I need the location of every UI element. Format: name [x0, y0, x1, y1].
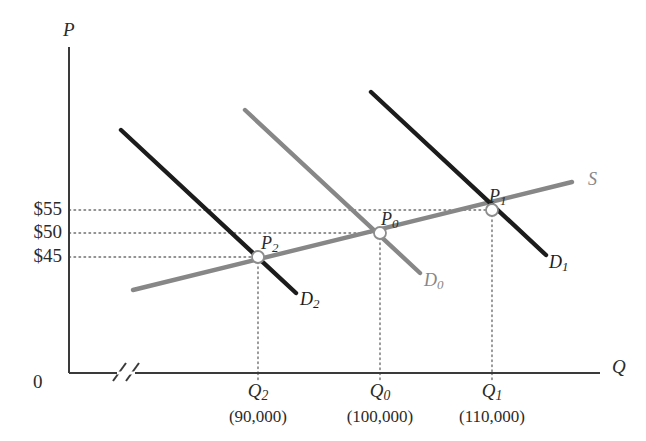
guide-lines: [69, 210, 492, 383]
equilibrium-label-p1-name: P: [489, 186, 500, 206]
quantity-tick-label-q1: Q1: [442, 381, 542, 403]
quantity-tick-label-q2: Q2: [208, 381, 308, 403]
equilibrium-label-p2: P2: [261, 234, 278, 255]
quantity-tick-label-q0: Q0: [330, 381, 430, 403]
equilibrium-label-p1: P1: [489, 187, 506, 208]
curve-label-d1: D1: [549, 253, 568, 274]
price-tick-55: $55: [0, 199, 62, 218]
curve-label-d1-sub: 1: [562, 259, 568, 274]
curve-label-d2: D2: [300, 290, 319, 311]
quantity-tick-value-q1: (110,000): [432, 408, 552, 425]
q-axis-label: Q: [612, 357, 626, 376]
equilibrium-label-p2-name: P: [261, 233, 272, 253]
quantity-tick-name-q0: Q: [370, 380, 384, 401]
curve-label-s: S: [588, 170, 597, 191]
quantity-tick-sub-q0: 0: [383, 388, 390, 403]
equilibrium-label-p2-sub: 2: [272, 240, 278, 255]
curve-label-d0: D0: [424, 271, 443, 292]
curve-label-d1-name: D: [549, 252, 562, 272]
equilibrium-label-p1-sub: 1: [500, 193, 506, 208]
origin-label: 0: [33, 372, 43, 391]
axes-lines: [69, 47, 600, 381]
equilibrium-label-p0: P0: [381, 210, 398, 231]
quantity-tick-sub-q1: 1: [495, 388, 502, 403]
supply-demand-figure: P Q 0 $55 $50 $45 Q2 (90,000) Q0 (100,00…: [0, 0, 646, 441]
curve-label-d0-name: D: [424, 270, 437, 290]
chart-canvas: [0, 0, 646, 441]
curve-label-d2-sub: 2: [313, 296, 319, 311]
quantity-tick-name-q2: Q: [248, 380, 262, 401]
quantity-tick-name-q1: Q: [482, 380, 496, 401]
quantity-tick-sub-q2: 2: [261, 388, 268, 403]
equilibrium-label-p0-name: P: [381, 209, 392, 229]
curve-label-d0-sub: 0: [437, 277, 443, 292]
price-tick-45: $45: [0, 246, 62, 265]
quantity-tick-value-q0: (100,000): [320, 408, 440, 425]
p-axis-label: P: [63, 20, 75, 39]
demand-curve-d2: [121, 130, 296, 293]
demand-curve-d2-line: [121, 130, 296, 293]
curve-label-s-name: S: [588, 169, 597, 189]
price-tick-50: $50: [0, 222, 62, 241]
quantity-tick-value-q2: (90,000): [203, 408, 313, 425]
curve-label-d2-name: D: [300, 289, 313, 309]
equilibrium-label-p0-sub: 0: [392, 216, 398, 231]
